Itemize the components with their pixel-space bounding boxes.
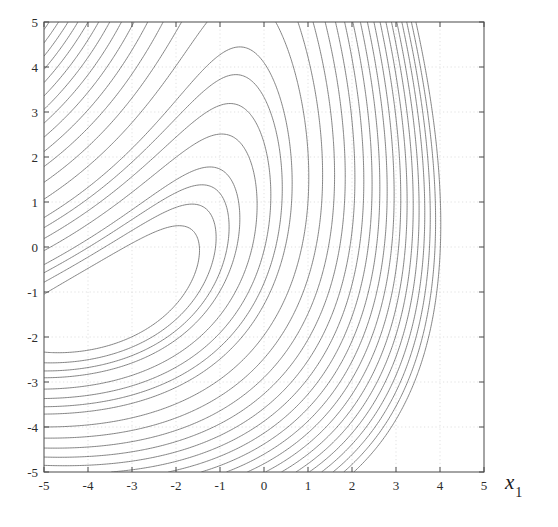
x-tick-label: 2: [349, 479, 356, 492]
x-tick-label: 1: [305, 479, 312, 492]
plot-canvas: [0, 0, 558, 527]
x-tick-label: -3: [127, 479, 138, 492]
y-tick-label: 2: [14, 151, 38, 164]
x-axis-label: x1: [505, 472, 521, 497]
x-axis-label-symbol: x: [505, 470, 514, 494]
y-tick-label: -3: [14, 376, 38, 389]
y-tick-label: -4: [14, 421, 38, 434]
x-tick-label: 0: [261, 479, 268, 492]
y-tick-label: 5: [14, 16, 38, 29]
x-tick-label: 5: [481, 479, 488, 492]
x-axis-label-subscript: 1: [515, 485, 522, 500]
y-tick-label: -5: [14, 466, 38, 479]
contour-plot-figure: -5-4-3-2-1012345 -5-4-3-2-1012345 x1: [0, 0, 558, 527]
y-tick-label: 3: [14, 106, 38, 119]
x-tick-label: -1: [215, 479, 226, 492]
x-tick-label: -5: [39, 479, 50, 492]
x-tick-label: 4: [437, 479, 444, 492]
x-tick-label: -2: [171, 479, 182, 492]
x-tick-label: -4: [83, 479, 94, 492]
y-tick-label: 4: [14, 61, 38, 74]
y-tick-label: -1: [14, 286, 38, 299]
x-tick-label: 3: [393, 479, 400, 492]
y-tick-label: -2: [14, 331, 38, 344]
y-tick-label: 0: [14, 241, 38, 254]
y-tick-label: 1: [14, 196, 38, 209]
